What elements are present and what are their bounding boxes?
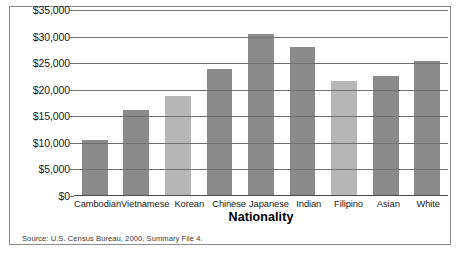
gridline bbox=[74, 37, 448, 38]
y-axis-labels: $0$5,000$10,000$15,000$20,000$25,000$30,… bbox=[12, 10, 74, 196]
x-axis-title: Nationality bbox=[74, 210, 448, 224]
y-axis-tick-label: $25,000 bbox=[33, 57, 70, 69]
bar-slot bbox=[407, 10, 449, 195]
y-axis-tick bbox=[69, 37, 74, 38]
y-axis-tick-label: $5,000 bbox=[38, 163, 70, 175]
bar-slot bbox=[74, 10, 116, 195]
x-axis-label-japanese: Japanese bbox=[249, 198, 289, 209]
bar-slot bbox=[282, 10, 324, 195]
bar-asian bbox=[373, 76, 399, 195]
bar-cambodian bbox=[82, 140, 108, 196]
chart-figure: $0$5,000$10,000$15,000$20,000$25,000$30,… bbox=[0, 0, 460, 259]
bar-white bbox=[414, 61, 440, 195]
y-axis-tick-label: $30,000 bbox=[33, 31, 70, 43]
x-axis-category-labels: CambodianVietnameseKoreanChineseJapanese… bbox=[74, 198, 448, 209]
gridline bbox=[74, 90, 448, 91]
gridline bbox=[74, 63, 448, 64]
bar-slot bbox=[157, 10, 199, 195]
gridline bbox=[74, 116, 448, 117]
bar-korean bbox=[165, 96, 191, 195]
y-axis-tick bbox=[69, 90, 74, 91]
gridline bbox=[74, 10, 448, 11]
bar-slot bbox=[365, 10, 407, 195]
gridline bbox=[74, 169, 448, 170]
y-axis-tick bbox=[69, 116, 74, 117]
bar-slot bbox=[323, 10, 365, 195]
x-axis-line bbox=[74, 195, 448, 196]
bar-slot bbox=[199, 10, 241, 195]
x-axis-label-vietnamese: Vietnamese bbox=[121, 198, 169, 209]
x-axis-label-korean: Korean bbox=[169, 198, 209, 209]
bar-indian bbox=[290, 47, 316, 195]
x-axis-label-asian: Asian bbox=[368, 198, 408, 209]
bar-chinese bbox=[207, 69, 233, 195]
y-axis-tick bbox=[69, 63, 74, 64]
x-axis-label-filipino: Filipino bbox=[329, 198, 369, 209]
x-axis-label-indian: Indian bbox=[289, 198, 329, 209]
x-axis-label-cambodian: Cambodian bbox=[74, 198, 121, 209]
y-axis-tick bbox=[69, 196, 74, 197]
x-axis-label-white: White bbox=[408, 198, 448, 209]
y-axis-tick bbox=[69, 10, 74, 11]
plot-area-wrapper: $0$5,000$10,000$15,000$20,000$25,000$30,… bbox=[12, 10, 448, 196]
bar-filipino bbox=[331, 81, 357, 195]
y-axis-tick-label: $20,000 bbox=[33, 84, 70, 96]
y-axis-tick-label: $15,000 bbox=[33, 110, 70, 122]
y-axis-tick bbox=[69, 169, 74, 170]
y-axis-tick-label: $35,000 bbox=[33, 4, 70, 16]
bar-vietnamese bbox=[123, 110, 149, 195]
source-note: Source: U.S. Census Bureau, 2000, Summar… bbox=[22, 234, 203, 243]
bar-series bbox=[74, 10, 448, 195]
y-axis-tick-label: $10,000 bbox=[33, 137, 70, 149]
bar-japanese bbox=[248, 34, 274, 195]
bar-slot bbox=[240, 10, 282, 195]
y-axis-tick bbox=[69, 143, 74, 144]
x-axis-label-chinese: Chinese bbox=[209, 198, 249, 209]
bar-slot bbox=[116, 10, 158, 195]
plot-area bbox=[74, 10, 448, 196]
gridline bbox=[74, 143, 448, 144]
